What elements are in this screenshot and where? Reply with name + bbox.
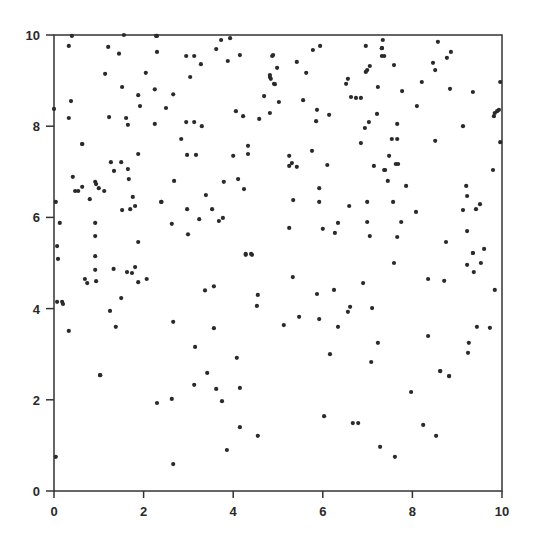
data-point — [214, 387, 218, 391]
data-point — [328, 352, 332, 356]
data-point — [368, 234, 372, 238]
data-point — [93, 221, 97, 225]
data-point — [117, 52, 121, 56]
data-point — [482, 247, 486, 251]
data-point — [399, 220, 403, 224]
data-point — [356, 421, 360, 425]
scatter-chart: 0246810 0246810 — [0, 0, 533, 547]
data-point — [291, 198, 295, 202]
data-point — [102, 189, 106, 193]
data-point — [112, 169, 116, 173]
data-point — [131, 195, 135, 199]
data-point — [61, 302, 65, 306]
data-point — [465, 263, 469, 267]
data-point — [442, 279, 446, 283]
data-point — [415, 104, 419, 108]
data-point — [83, 277, 87, 281]
data-point — [126, 167, 130, 171]
data-point — [238, 53, 242, 57]
data-point — [287, 154, 291, 158]
data-point — [461, 124, 465, 128]
data-point — [192, 120, 196, 124]
data-point — [67, 44, 71, 48]
data-point — [372, 164, 376, 168]
data-point — [321, 227, 325, 231]
data-point — [291, 275, 295, 279]
x-axis-ticks: 0246810 — [50, 491, 509, 519]
data-point — [109, 160, 113, 164]
data-point — [295, 165, 299, 169]
data-point — [159, 200, 163, 204]
data-point — [275, 66, 279, 70]
data-point — [433, 139, 437, 143]
data-point — [315, 292, 319, 296]
data-point — [368, 64, 372, 68]
data-point — [221, 216, 225, 220]
data-point — [479, 261, 483, 265]
data-point — [197, 217, 201, 221]
data-point — [98, 373, 102, 377]
data-point — [491, 168, 495, 172]
data-point — [256, 434, 260, 438]
data-point — [395, 137, 399, 141]
data-point — [271, 53, 275, 57]
data-point — [311, 48, 315, 52]
data-point — [365, 220, 369, 224]
data-point — [219, 38, 223, 42]
data-point — [344, 82, 348, 86]
data-point — [80, 185, 84, 189]
data-point — [97, 186, 101, 190]
y-axis-ticks: 0246810 — [26, 28, 54, 499]
data-point — [179, 137, 183, 141]
data-point — [369, 360, 373, 364]
data-point — [497, 108, 501, 112]
data-point — [322, 414, 326, 418]
data-point — [250, 253, 254, 257]
data-point — [295, 60, 299, 64]
data-point — [359, 96, 363, 100]
x-tick-label: 0 — [50, 504, 57, 519]
data-point — [199, 62, 203, 66]
data-point — [55, 300, 59, 304]
data-point — [317, 317, 321, 321]
data-point — [242, 187, 246, 191]
data-point — [333, 231, 337, 235]
data-point — [67, 116, 71, 120]
data-point — [392, 63, 396, 67]
data-point — [364, 44, 368, 48]
data-point — [93, 254, 97, 258]
data-point — [214, 47, 218, 51]
data-point — [392, 261, 396, 265]
data-point — [363, 126, 367, 130]
data-point — [365, 200, 369, 204]
data-point — [126, 123, 130, 127]
data-point — [220, 399, 224, 403]
data-point — [336, 221, 340, 225]
x-tick-label: 10 — [495, 504, 509, 519]
data-point — [246, 144, 250, 148]
data-points — [52, 33, 502, 466]
data-point — [228, 36, 232, 40]
data-point — [474, 207, 478, 211]
data-point — [56, 257, 60, 261]
data-point — [370, 306, 374, 310]
data-point — [488, 326, 492, 330]
data-point — [125, 270, 129, 274]
data-point — [236, 177, 240, 181]
data-point — [438, 369, 442, 373]
data-point — [262, 94, 266, 98]
data-point — [133, 265, 137, 269]
data-point — [204, 193, 208, 197]
data-point — [136, 152, 140, 156]
data-point — [445, 56, 449, 60]
data-point — [256, 293, 260, 297]
data-point — [58, 221, 62, 225]
data-point — [367, 120, 371, 124]
data-point — [359, 141, 363, 145]
y-tick-label: 4 — [33, 302, 41, 317]
data-point — [112, 267, 116, 271]
data-point — [426, 334, 430, 338]
data-point — [395, 235, 399, 239]
data-point — [297, 315, 301, 319]
data-point — [122, 33, 126, 37]
